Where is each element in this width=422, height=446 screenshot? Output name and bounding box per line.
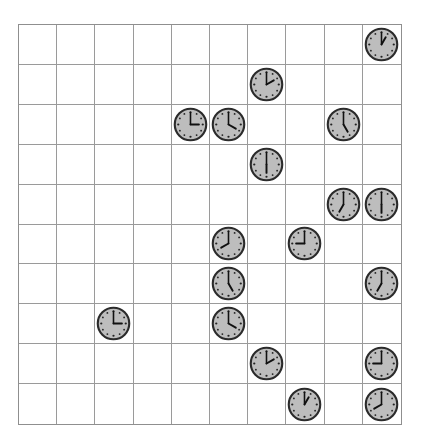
clock-icon[interactable] xyxy=(326,187,361,222)
grid-cell[interactable] xyxy=(57,105,95,145)
grid-cell[interactable] xyxy=(134,264,172,304)
clock-icon[interactable] xyxy=(364,27,399,62)
grid-cell[interactable] xyxy=(57,185,95,225)
clock-icon[interactable] xyxy=(287,226,322,261)
grid-cell[interactable] xyxy=(19,25,57,65)
grid-cell[interactable] xyxy=(325,225,363,265)
grid-cell[interactable] xyxy=(134,344,172,384)
grid-cell[interactable] xyxy=(95,25,133,65)
grid-cell[interactable] xyxy=(325,185,363,225)
grid-cell[interactable] xyxy=(134,65,172,105)
grid-cell[interactable] xyxy=(57,344,95,384)
grid-cell[interactable] xyxy=(210,185,248,225)
grid-cell[interactable] xyxy=(248,145,286,185)
grid-cell[interactable] xyxy=(19,65,57,105)
clock-icon[interactable] xyxy=(364,187,399,222)
grid-cell[interactable] xyxy=(95,145,133,185)
clock-icon[interactable] xyxy=(364,266,399,301)
clock-icon[interactable] xyxy=(249,67,284,102)
grid-cell[interactable] xyxy=(57,304,95,344)
clock-icon[interactable] xyxy=(249,346,284,381)
grid-cell[interactable] xyxy=(134,145,172,185)
clock-icon[interactable] xyxy=(326,107,361,142)
grid-cell[interactable] xyxy=(286,304,324,344)
grid-cell[interactable] xyxy=(363,304,401,344)
grid-cell[interactable] xyxy=(210,225,248,265)
grid-cell[interactable] xyxy=(134,225,172,265)
grid-cell[interactable] xyxy=(286,145,324,185)
grid-cell[interactable] xyxy=(19,105,57,145)
grid-cell[interactable] xyxy=(210,344,248,384)
grid-cell[interactable] xyxy=(286,25,324,65)
grid-cell[interactable] xyxy=(172,264,210,304)
grid-cell[interactable] xyxy=(363,384,401,424)
grid-cell[interactable] xyxy=(248,384,286,424)
grid-cell[interactable] xyxy=(248,304,286,344)
grid-cell[interactable] xyxy=(172,344,210,384)
grid-cell[interactable] xyxy=(95,185,133,225)
grid-cell[interactable] xyxy=(248,344,286,384)
grid-cell[interactable] xyxy=(19,384,57,424)
grid-cell[interactable] xyxy=(286,264,324,304)
grid-cell[interactable] xyxy=(19,145,57,185)
grid-cell[interactable] xyxy=(363,344,401,384)
grid-cell[interactable] xyxy=(95,304,133,344)
grid-cell[interactable] xyxy=(248,105,286,145)
grid-cell[interactable] xyxy=(286,65,324,105)
grid-cell[interactable] xyxy=(210,264,248,304)
grid-cell[interactable] xyxy=(248,225,286,265)
grid-cell[interactable] xyxy=(172,304,210,344)
grid-cell[interactable] xyxy=(210,65,248,105)
grid-cell[interactable] xyxy=(248,264,286,304)
grid-cell[interactable] xyxy=(325,65,363,105)
grid-cell[interactable] xyxy=(134,304,172,344)
clock-icon[interactable] xyxy=(211,306,246,341)
grid-cell[interactable] xyxy=(95,344,133,384)
grid-cell[interactable] xyxy=(363,145,401,185)
grid-cell[interactable] xyxy=(95,65,133,105)
grid-cell[interactable] xyxy=(325,344,363,384)
grid-cell[interactable] xyxy=(210,145,248,185)
grid-cell[interactable] xyxy=(19,225,57,265)
clock-icon[interactable] xyxy=(364,387,399,422)
grid-cell[interactable] xyxy=(134,25,172,65)
grid-cell[interactable] xyxy=(248,185,286,225)
grid-cell[interactable] xyxy=(210,25,248,65)
grid-cell[interactable] xyxy=(286,105,324,145)
grid-cell[interactable] xyxy=(363,65,401,105)
grid-cell[interactable] xyxy=(325,145,363,185)
grid-cell[interactable] xyxy=(57,25,95,65)
grid-cell[interactable] xyxy=(172,65,210,105)
grid-cell[interactable] xyxy=(325,384,363,424)
grid-cell[interactable] xyxy=(134,384,172,424)
grid-cell[interactable] xyxy=(325,304,363,344)
grid-cell[interactable] xyxy=(248,25,286,65)
grid-cell[interactable] xyxy=(95,264,133,304)
grid-cell[interactable] xyxy=(57,264,95,304)
grid-cell[interactable] xyxy=(363,105,401,145)
grid-cell[interactable] xyxy=(325,105,363,145)
grid-cell[interactable] xyxy=(19,344,57,384)
clock-icon[interactable] xyxy=(249,147,284,182)
clock-icon[interactable] xyxy=(287,387,322,422)
clock-icon[interactable] xyxy=(173,107,208,142)
grid-cell[interactable] xyxy=(57,65,95,105)
grid-cell[interactable] xyxy=(286,225,324,265)
grid-cell[interactable] xyxy=(172,145,210,185)
clock-icon[interactable] xyxy=(211,107,246,142)
grid-cell[interactable] xyxy=(172,185,210,225)
clock-icon[interactable] xyxy=(96,306,131,341)
grid-cell[interactable] xyxy=(172,105,210,145)
clock-icon[interactable] xyxy=(211,266,246,301)
grid-cell[interactable] xyxy=(363,264,401,304)
grid-cell[interactable] xyxy=(19,264,57,304)
grid-cell[interactable] xyxy=(95,105,133,145)
grid-cell[interactable] xyxy=(57,225,95,265)
grid-cell[interactable] xyxy=(210,105,248,145)
grid-cell[interactable] xyxy=(363,185,401,225)
grid-cell[interactable] xyxy=(286,384,324,424)
grid-cell[interactable] xyxy=(325,25,363,65)
grid-cell[interactable] xyxy=(363,25,401,65)
grid-cell[interactable] xyxy=(210,304,248,344)
grid-cell[interactable] xyxy=(286,185,324,225)
